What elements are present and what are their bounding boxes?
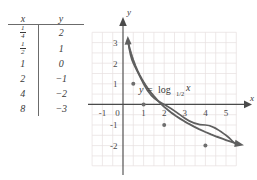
- table-row: 2 −1: [8, 71, 84, 86]
- data-point-two-negone: [162, 123, 166, 127]
- data-point-half-one: [131, 82, 135, 86]
- x-tick-label-4: 4: [203, 108, 208, 118]
- equation-base: 1/2: [176, 90, 184, 97]
- y-tick-label-3: 3: [113, 38, 118, 48]
- data-point-four-negtwo: [203, 144, 207, 148]
- log-graph-svg: x y -1 0 1 2 3 4 5 3 2 1 -1 -2: [88, 0, 257, 180]
- cell-y-1: 1: [38, 41, 84, 57]
- equation-log: log: [158, 84, 171, 95]
- fraction-one-half: 1 2: [20, 41, 26, 57]
- cell-x-3: 2: [8, 71, 38, 86]
- table-row: 4 −2: [8, 86, 84, 101]
- equation-lhs: y: [138, 84, 144, 95]
- cell-y-0: 2: [38, 25, 84, 41]
- table-row: 8 −3: [8, 101, 84, 116]
- y-tick-label-2: 2: [113, 59, 118, 69]
- x-tick-label-2: 2: [162, 108, 167, 118]
- fraction-one-quarter: 1 4: [20, 25, 26, 41]
- curve-top-arrow-icon: [125, 36, 132, 45]
- cell-y-2: 0: [38, 56, 84, 71]
- x-tick-label-5: 5: [224, 108, 229, 118]
- value-table: x y 1 4 2 1 2: [8, 10, 84, 116]
- y-tick-label-1: 1: [113, 79, 118, 89]
- y-tick-label--1: -1: [110, 120, 118, 130]
- cell-y-3: −1: [38, 71, 84, 86]
- x-tick-label-1: 1: [141, 108, 146, 118]
- cell-y-4: −2: [38, 86, 84, 101]
- x-tick-label-0: 0: [115, 108, 120, 118]
- column-header-x: x: [8, 10, 38, 24]
- data-point-one-zero: [142, 102, 146, 106]
- cell-y-5: −3: [38, 101, 84, 116]
- xy-table: x y 1 4 2 1 2: [8, 10, 84, 116]
- cell-x-0: 1 4: [8, 25, 38, 41]
- column-header-y: y: [38, 10, 84, 24]
- figure-root: x y 1 4 2 1 2: [0, 0, 257, 180]
- table-row: 1 4 2: [8, 25, 84, 41]
- y-axis-label: y: [126, 7, 131, 17]
- table-header-row: x y: [8, 10, 84, 24]
- equation-arg: x: [185, 82, 191, 93]
- graph-panel: x y -1 0 1 2 3 4 5 3 2 1 -1 -2: [88, 0, 257, 180]
- cell-x-4: 4: [8, 86, 38, 101]
- table-row: 1 2 1: [8, 41, 84, 57]
- y-axis-arrow-icon: [119, 17, 127, 26]
- y-tick-label--2: -2: [110, 141, 118, 151]
- x-axis-label: x: [249, 93, 254, 103]
- cell-x-5: 8: [8, 101, 38, 116]
- y-axis: [119, 17, 127, 175]
- x-tick-label--1: -1: [99, 108, 107, 118]
- curve-end-arrow-icon: [234, 140, 244, 147]
- equation-equals: =: [147, 84, 153, 95]
- cell-x-1: 1 2: [8, 41, 38, 57]
- cell-x-2: 1: [8, 56, 38, 71]
- table-row: 1 0: [8, 56, 84, 71]
